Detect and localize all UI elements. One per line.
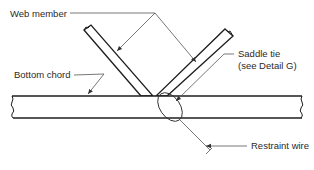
restraint-wire (178, 118, 212, 154)
web-member-label: Web member (10, 8, 67, 19)
bottom-chord-label: Bottom chord (14, 69, 71, 80)
saddle-tie-detail-label: (see Detail G) (238, 60, 297, 71)
web-member-leader (70, 13, 196, 62)
web-member-right (156, 29, 233, 96)
bottom-chord-leader (74, 74, 104, 94)
saddle-tie-label: Saddle tie (238, 48, 280, 59)
web-member-left (84, 25, 153, 96)
bottom-chord (11, 96, 303, 118)
truss-diagram: Web member Bottom chord Saddle tie (see … (0, 0, 314, 170)
restraint-wire-label: Restraint wire (251, 140, 309, 151)
